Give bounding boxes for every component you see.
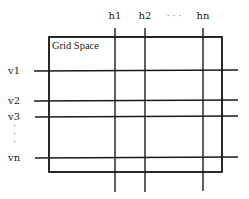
horizontal-line-label: v1 xyxy=(7,65,20,76)
horizontal-line-v1 xyxy=(34,70,238,71)
vertical-ellipsis: ··· xyxy=(13,121,16,147)
horizontal-line-v2 xyxy=(34,100,238,101)
grid-space-diagram: Grid Space h1h2hn v1v2v3vn · · · ··· xyxy=(0,0,249,199)
grid-space-boundary xyxy=(49,37,222,172)
vertical-line-label: hn xyxy=(197,10,210,21)
horizontal-line-label: vn xyxy=(7,152,21,163)
horizontal-line-label: v2 xyxy=(7,95,20,106)
vertical-line-label: h2 xyxy=(139,10,152,21)
vertical-line-label: h1 xyxy=(109,10,122,21)
vertical-ellipsis-dot: · xyxy=(13,137,16,147)
grid-box: Grid Space xyxy=(49,37,222,172)
grid-space-title: Grid Space xyxy=(52,40,99,51)
horizontal-line-v3 xyxy=(35,116,238,117)
horizontal-line-vn xyxy=(35,157,238,158)
horizontal-ellipsis: · · · xyxy=(167,11,181,21)
